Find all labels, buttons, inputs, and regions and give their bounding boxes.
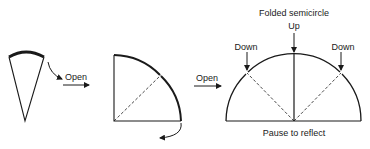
folding-diagram [0, 0, 370, 149]
cone-shape [9, 52, 44, 121]
down-label-right: Down [331, 43, 354, 52]
curved-arrow-icon [160, 123, 181, 138]
curved-arrow-icon [48, 62, 62, 79]
caption: Pause to reflect [263, 129, 326, 138]
fold-line-down-left [247, 73, 294, 121]
up-label: Up [288, 22, 300, 31]
fold-line-down-right [294, 73, 341, 121]
semicircle-title: Folded semicircle [259, 9, 329, 18]
down-label-left: Down [234, 43, 257, 52]
open-label-1: Open [65, 73, 87, 82]
open-label-2: Open [196, 74, 218, 83]
fold-line [114, 75, 161, 121]
quarter-circle-shape [114, 55, 181, 121]
